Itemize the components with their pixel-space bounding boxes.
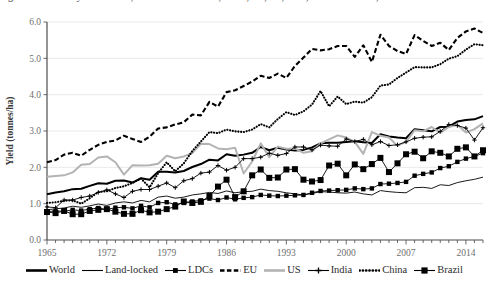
data-point-marker [310,191,314,195]
x-axis-tick-label: 1972 [97,248,116,258]
data-point-marker [309,179,315,185]
y-axis-title: Yield (tonnes/ha) [5,96,16,165]
data-point-marker [139,187,143,191]
data-point-marker [95,207,101,213]
data-point-marker [327,144,331,148]
data-point-marker [344,188,348,192]
data-point-marker [258,167,264,173]
data-point-marker [430,170,434,174]
y-axis-tick-label: 0.0 [29,235,41,245]
data-point-marker [129,211,135,217]
x-axis-tick-label: 2000 [337,248,356,258]
legend-item-us[interactable]: US [264,265,300,276]
data-point-marker [172,204,178,210]
data-point-marker [293,193,297,197]
series-eu [47,29,483,163]
data-point-marker [276,194,280,198]
data-point-marker [199,171,203,175]
legend-item-world[interactable]: World [26,265,75,276]
data-point-marker [343,172,349,178]
data-point-marker [104,206,110,212]
chart-legend: WorldLand-lockedLDCsEUUSIndiaChinaBrazil [0,262,489,279]
legend-label: World [49,265,75,276]
data-point-marker [404,180,408,184]
data-point-marker [412,173,416,177]
chart-figure: Figure 1.2.4 Wheat yield in world, land-… [0,0,489,281]
data-point-marker [361,137,365,141]
data-point-marker [206,193,212,199]
legend-label: US [287,265,300,276]
data-point-marker [369,161,375,167]
legend-item-brazil[interactable]: Brazil [414,265,463,276]
legend-swatch-thin-solid-black-line [82,265,103,276]
x-axis-tick-label: 1979 [157,248,176,258]
y-axis-tick-label: 3.0 [29,126,41,136]
data-point-marker [387,143,391,147]
legend-label: EU [243,265,257,276]
data-point-marker [352,161,358,167]
x-axis-tick-label: 2007 [397,248,416,258]
data-point-marker [198,199,204,205]
data-point-marker [395,181,399,185]
data-point-marker [78,211,84,217]
data-point-marker [249,172,255,178]
data-point-marker [147,187,151,191]
data-point-marker [44,209,50,215]
data-point-marker [250,195,254,199]
x-axis-tick-label: 2014 [456,248,475,258]
data-point-marker [224,168,228,172]
legend-item-ldcs[interactable]: LDCs [165,265,213,276]
legend-item-india[interactable]: India [308,265,353,276]
data-point-marker [122,205,126,209]
x-axis-tick-label: 1965 [38,248,57,258]
data-point-marker [130,206,134,210]
data-point-marker [370,186,374,190]
y-axis-tick-label: 5.0 [29,54,41,64]
data-point-marker [301,193,305,197]
data-point-marker [164,206,170,212]
data-point-marker [181,198,187,204]
legend-label: India [331,265,353,276]
y-axis-tick-label: 6.0 [29,17,41,27]
data-point-marker [326,163,332,169]
data-point-marker [190,176,194,180]
legend-item-china[interactable]: China [359,265,407,276]
data-point-marker [232,194,238,200]
data-point-marker [113,192,117,196]
y-axis-tick-label: 4.0 [29,90,41,100]
data-point-marker [53,210,59,216]
data-point-marker [112,209,118,215]
legend-label: Land-locked [105,265,158,276]
data-point-marker [412,149,418,155]
data-point-marker [61,208,67,214]
data-point-marker [430,135,434,139]
data-point-marker [241,188,247,194]
legend-item-land-locked[interactable]: Land-locked [82,265,158,276]
data-point-marker [464,156,468,160]
legend-label: China [382,265,407,276]
data-point-marker [147,205,151,209]
data-point-marker [147,209,153,215]
data-point-marker [378,182,382,186]
data-point-marker [45,205,49,209]
data-point-marker [156,201,160,205]
data-point-marker [241,196,245,200]
data-point-marker [164,181,168,185]
data-point-marker [266,175,272,181]
data-point-marker [224,195,228,199]
data-point-marker [155,209,161,215]
data-point-marker [437,150,443,156]
data-point-marker [267,193,271,197]
data-point-marker [224,177,230,183]
data-point-marker [164,200,168,204]
legend-swatch-thick-solid-gray-line [264,265,285,276]
line-chart-plot: 0.01.02.03.04.05.06.01965197219791986199… [0,0,489,262]
data-point-marker [454,146,460,152]
data-point-marker [421,172,425,176]
legend-label: LDCs [188,265,213,276]
legend-label: Brazil [437,265,463,276]
legend-item-eu[interactable]: EU [220,265,257,276]
data-point-marker [463,144,469,150]
data-point-marker [292,166,298,172]
data-point-marker [378,139,382,143]
